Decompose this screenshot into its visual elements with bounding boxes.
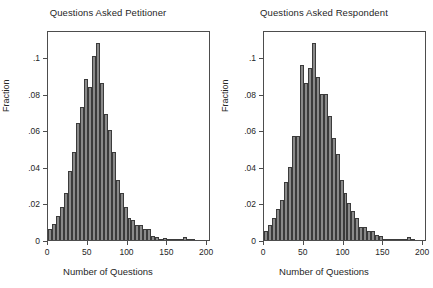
x-tick-mark bbox=[343, 241, 344, 245]
y-tick-mark bbox=[43, 95, 47, 96]
x-tick-label: 100 bbox=[335, 247, 349, 257]
x-tick-label: 150 bbox=[375, 247, 389, 257]
histogram-figure: Questions Asked Petitioner Fraction 0.02… bbox=[0, 0, 433, 288]
x-tick-mark bbox=[303, 241, 304, 245]
x-axis-label-petitioner: Number of Questions bbox=[0, 266, 216, 277]
y-tick-mark bbox=[43, 58, 47, 59]
y-tick-mark bbox=[43, 131, 47, 132]
y-axis-label-petitioner: Fraction bbox=[1, 79, 11, 112]
y-tick-mark bbox=[259, 131, 263, 132]
y-tick-label: .08 bbox=[28, 90, 40, 100]
y-tick-mark bbox=[259, 58, 263, 59]
histogram-bar bbox=[191, 239, 195, 240]
x-tick-label: 0 bbox=[45, 247, 50, 257]
x-tick-label: 200 bbox=[199, 247, 213, 257]
x-tick-label: 100 bbox=[119, 247, 133, 257]
y-tick-label: 0 bbox=[251, 236, 256, 246]
y-tick-label: .06 bbox=[28, 126, 40, 136]
y-tick-label: .04 bbox=[244, 163, 256, 173]
chart-title-petitioner: Questions Asked Petitioner bbox=[0, 7, 216, 18]
panel-petitioner: Questions Asked Petitioner Fraction 0.02… bbox=[0, 0, 216, 288]
x-tick-mark bbox=[127, 241, 128, 245]
y-tick-label: .06 bbox=[244, 126, 256, 136]
plot-area-respondent bbox=[263, 31, 426, 241]
x-tick-mark bbox=[206, 241, 207, 245]
y-tick-label: .1 bbox=[33, 53, 40, 63]
x-tick-mark bbox=[47, 241, 48, 245]
histogram-bars-respondent bbox=[264, 32, 425, 240]
x-tick-mark bbox=[87, 241, 88, 245]
chart-title-respondent: Questions Asked Respondent bbox=[216, 7, 432, 18]
histogram-bar bbox=[411, 239, 415, 240]
y-tick-label: .04 bbox=[28, 163, 40, 173]
x-tick-mark bbox=[382, 241, 383, 245]
panel-respondent: Questions Asked Respondent Fraction 0.02… bbox=[216, 0, 432, 288]
y-tick-label: .08 bbox=[244, 90, 256, 100]
histogram-bars-petitioner bbox=[48, 32, 209, 240]
x-tick-label: 150 bbox=[159, 247, 173, 257]
y-tick-mark bbox=[43, 204, 47, 205]
y-tick-label: .02 bbox=[28, 199, 40, 209]
x-tick-mark bbox=[263, 241, 264, 245]
x-tick-label: 50 bbox=[82, 247, 91, 257]
plot-area-petitioner bbox=[47, 31, 210, 241]
y-axis-label-respondent: Fraction bbox=[220, 79, 230, 112]
x-tick-label: 0 bbox=[261, 247, 266, 257]
y-tick-mark bbox=[259, 204, 263, 205]
x-tick-label: 200 bbox=[415, 247, 429, 257]
y-tick-label: 0 bbox=[35, 236, 40, 246]
y-tick-mark bbox=[259, 95, 263, 96]
y-tick-mark bbox=[43, 168, 47, 169]
y-tick-label: .02 bbox=[244, 199, 256, 209]
y-tick-mark bbox=[259, 168, 263, 169]
x-axis-label-respondent: Number of Questions bbox=[216, 266, 432, 277]
x-tick-mark bbox=[422, 241, 423, 245]
y-tick-label: .1 bbox=[249, 53, 256, 63]
x-tick-mark bbox=[166, 241, 167, 245]
x-tick-label: 50 bbox=[298, 247, 307, 257]
